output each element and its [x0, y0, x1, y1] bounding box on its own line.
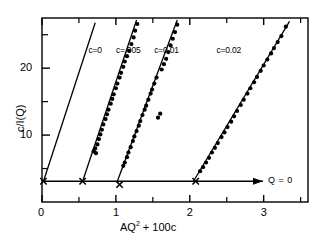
xtick-label-2: 2 — [187, 206, 193, 218]
q-zero-baseline — [42, 178, 263, 185]
q-zero-annotation: Q = 0 — [268, 175, 293, 185]
xtick-label-1: 1 — [113, 206, 119, 218]
plot-canvas — [0, 0, 320, 240]
series-label-c0: c=0 — [89, 45, 102, 55]
x-axis-title: AQ2 + 100c — [120, 220, 176, 233]
fit-lines — [43, 20, 289, 181]
intercept-markers — [40, 178, 199, 188]
series-label-c01: c=0.01 — [154, 45, 179, 55]
series-label-c02: c=0.02 — [216, 45, 241, 55]
ytick-label-20: 20 — [20, 61, 32, 73]
xtick-label-0: 0 — [38, 206, 44, 218]
figure-container: 0 1 2 3 10 20 AQ2 + 100c c/I(Q) c=0 c=.0… — [0, 0, 320, 240]
series-label-c005: c=.005 — [116, 45, 141, 55]
y-axis-title: c/I(Q) — [14, 105, 26, 133]
xtick-label-3: 3 — [261, 206, 267, 218]
